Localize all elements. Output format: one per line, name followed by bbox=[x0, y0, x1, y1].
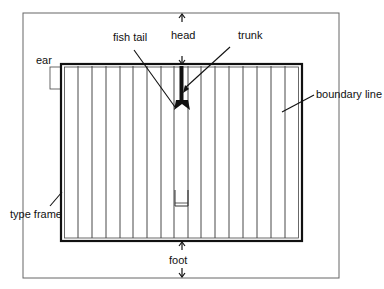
label-fish-tail: fish tail bbox=[113, 31, 147, 43]
bottom-bracket bbox=[175, 190, 188, 206]
label-boundary-line: boundary line bbox=[316, 88, 382, 100]
label-head: head bbox=[171, 29, 195, 41]
label-ear: ear bbox=[36, 54, 52, 66]
label-trunk: trunk bbox=[238, 29, 262, 41]
layout-diagram bbox=[0, 0, 384, 289]
trunk-bar bbox=[180, 66, 184, 102]
label-foot: foot bbox=[169, 254, 187, 266]
label-type-frame: type frame bbox=[10, 208, 62, 220]
ear-tab bbox=[50, 67, 61, 89]
